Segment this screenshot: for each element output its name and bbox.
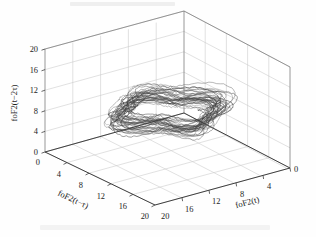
z-tick-label: 12 bbox=[30, 86, 38, 95]
y-tick-label: 12 bbox=[97, 192, 105, 201]
z-axis-tick-labels: 20 16 12 8 4 0 bbox=[30, 45, 39, 157]
y-tick-label: 0 bbox=[36, 158, 40, 167]
x-tick-label: 0 bbox=[294, 165, 298, 174]
plot-walls bbox=[45, 11, 290, 205]
z-axis-title: foF2(t−2τ) bbox=[9, 84, 19, 121]
x-tick-label: 16 bbox=[185, 205, 193, 214]
y-tick-label: 4 bbox=[57, 170, 62, 179]
figure-container: 20 16 12 8 4 0 0 4 8 12 16 20 20 16 12 8… bbox=[0, 0, 316, 237]
x-axis-title: foF2(t) bbox=[234, 194, 260, 210]
x-tick-label: 12 bbox=[212, 197, 220, 206]
x-tick-label: 20 bbox=[161, 212, 169, 221]
y-tick-label: 20 bbox=[141, 212, 149, 221]
z-tick-label: 20 bbox=[30, 45, 38, 54]
y-tick-label: 8 bbox=[79, 181, 83, 190]
z-tick-label: 0 bbox=[34, 148, 38, 157]
y-axis-title: foF2(t−τ) bbox=[56, 188, 90, 211]
x-tick-label: 4 bbox=[267, 182, 272, 191]
z-tick-label: 8 bbox=[34, 107, 38, 116]
z-tick-label: 16 bbox=[30, 66, 38, 75]
phase-space-plot: 20 16 12 8 4 0 0 4 8 12 16 20 20 16 12 8… bbox=[0, 0, 316, 237]
z-tick-label: 4 bbox=[34, 127, 39, 136]
y-tick-label: 16 bbox=[119, 202, 127, 211]
